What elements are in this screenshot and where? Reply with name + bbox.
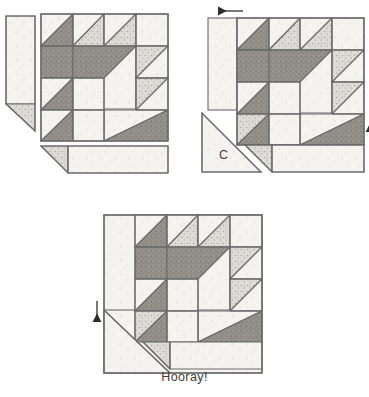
step-1-diagram bbox=[0, 0, 185, 200]
block-core-step1 bbox=[41, 14, 168, 141]
step-3-svg bbox=[90, 200, 280, 397]
bottom-strip bbox=[41, 146, 168, 173]
step-1-svg bbox=[0, 0, 185, 200]
diagram-caption: Hooray! bbox=[0, 370, 369, 384]
left-side-strip bbox=[6, 16, 35, 131]
step-2-diagram: C bbox=[185, 0, 369, 200]
attached-bottom-strip bbox=[245, 145, 364, 172]
block-core-step3 bbox=[135, 215, 262, 342]
step-2-svg: C bbox=[185, 0, 369, 200]
step-3-diagram bbox=[90, 200, 280, 397]
attached-left-strip bbox=[208, 18, 237, 110]
piece-label-c: C bbox=[219, 148, 228, 162]
block-core-step2 bbox=[237, 18, 364, 145]
